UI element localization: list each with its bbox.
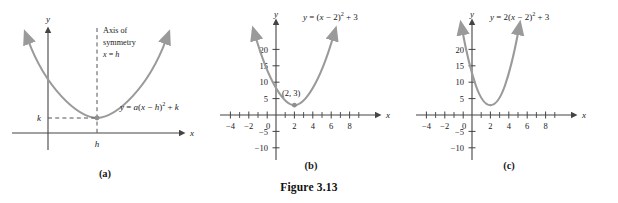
x-tick-labels: −4 −2 0 2 4 6 8 bbox=[422, 121, 548, 131]
vertex-point-label: (2, 3) bbox=[282, 88, 301, 98]
y-tick-label: 15 bbox=[456, 61, 465, 71]
y-axis-label: y bbox=[273, 9, 278, 19]
eq-plus: + bbox=[344, 12, 354, 22]
eq-minus: − bbox=[145, 102, 155, 112]
eq-k: k bbox=[175, 102, 180, 112]
x-tick-label: 8 bbox=[543, 121, 547, 131]
panel-b-caption: (b) bbox=[208, 160, 414, 171]
eq-equals: = bbox=[307, 12, 317, 22]
x-tick-label: 4 bbox=[507, 121, 512, 131]
x-tick-label: −2 bbox=[244, 121, 253, 131]
x-tick-label: −4 bbox=[226, 121, 236, 131]
y-tick-label: −5 bbox=[455, 127, 464, 137]
vertex-dot bbox=[292, 103, 297, 108]
x-tick-label: −2 bbox=[440, 121, 449, 131]
vertex-x-label-h: h bbox=[95, 139, 100, 149]
x-tick-label: 2 bbox=[292, 121, 296, 131]
x-tick-label: 4 bbox=[311, 121, 316, 131]
panel-a-plot: x y Axis of symmetry x = h bbox=[2, 0, 208, 175]
annotation-line-3: x = h bbox=[102, 50, 119, 59]
panel-c-caption: (c) bbox=[406, 160, 612, 171]
x-tick-label: 6 bbox=[329, 121, 333, 131]
x-axis-label: x bbox=[385, 110, 390, 120]
panel-c-plot: x y −4 −2 0 2 4 6 8 bbox=[406, 0, 612, 175]
equation-label-a: y = a(x − h)2 + k bbox=[119, 100, 180, 112]
eq-equals: = bbox=[124, 102, 134, 112]
y-tick-label: 20 bbox=[456, 45, 465, 55]
x-tick-labels: −4 −2 0 2 4 6 8 bbox=[226, 121, 352, 131]
x-tick-label: 2 bbox=[488, 121, 492, 131]
x-tick-label: 6 bbox=[525, 121, 529, 131]
vertex-y-label-k: k bbox=[37, 113, 42, 123]
x-tick-label: −4 bbox=[422, 121, 432, 131]
x-tick-label: 8 bbox=[347, 121, 351, 131]
y-tick-label: 5 bbox=[460, 94, 464, 104]
figure-container: x y Axis of symmetry x = h bbox=[0, 0, 618, 203]
y-axis bbox=[469, 24, 476, 160]
eq-plus: + bbox=[535, 12, 545, 22]
y-tick-label: −10 bbox=[451, 143, 464, 153]
annotation-h-var: h bbox=[115, 50, 119, 59]
x-axis bbox=[416, 112, 572, 119]
y-axis-label: y bbox=[469, 9, 474, 19]
y-tick-label: −5 bbox=[259, 127, 268, 137]
panel-b: x y −4 −2 0 2 4 bbox=[208, 0, 414, 175]
panel-a-caption: (a) bbox=[2, 168, 208, 179]
panel-a: x y Axis of symmetry x = h bbox=[2, 0, 208, 175]
y-tick-label: 10 bbox=[456, 77, 465, 87]
eq-minus: − bbox=[515, 12, 525, 22]
y-tick-labels: −10 −5 5 10 15 20 bbox=[255, 45, 268, 153]
x-axis-label: x bbox=[581, 110, 586, 120]
annotation-equals: = bbox=[107, 50, 116, 59]
y-tick-labels: −10 −5 5 10 15 20 bbox=[451, 45, 464, 153]
axis-of-symmetry-annotation: Axis of symmetry x = h bbox=[102, 26, 137, 59]
annotation-line-2: symmetry bbox=[103, 38, 137, 47]
eq-k: 3 bbox=[545, 12, 550, 22]
equation-label-b: y = (x − 2)2 + 3 bbox=[302, 10, 358, 22]
figure-caption: Figure 3.13 bbox=[0, 181, 618, 193]
panel-c: x y −4 −2 0 2 4 6 8 bbox=[406, 0, 612, 175]
equation-label-c: y = 2(x − 2)2 + 3 bbox=[489, 10, 550, 22]
eq-equals: = bbox=[494, 12, 504, 22]
y-tick-label: −10 bbox=[255, 143, 268, 153]
vertex-dot bbox=[95, 116, 100, 121]
eq-k: 3 bbox=[353, 12, 358, 22]
eq-minus: − bbox=[324, 12, 334, 22]
y-axis-label: y bbox=[45, 14, 50, 24]
y-tick-label: 5 bbox=[264, 94, 268, 104]
parabola-curve bbox=[462, 31, 518, 105]
x-axis bbox=[220, 112, 376, 119]
eq-plus: + bbox=[165, 102, 175, 112]
x-axis-label: x bbox=[189, 128, 194, 138]
panel-b-plot: x y −4 −2 0 2 4 bbox=[208, 0, 414, 175]
y-tick-label: 10 bbox=[260, 77, 269, 87]
annotation-line-1: Axis of bbox=[103, 26, 128, 35]
